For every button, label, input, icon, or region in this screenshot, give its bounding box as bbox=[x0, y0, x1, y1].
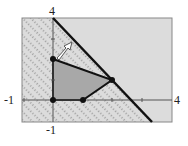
vertex-0-0 bbox=[50, 97, 56, 103]
vertex-0-2 bbox=[50, 56, 56, 62]
vertex-1-0 bbox=[80, 97, 86, 103]
chart: 4 4 -1 -1 bbox=[0, 0, 188, 146]
vertex-2-1 bbox=[109, 77, 115, 83]
y-max-label: 4 bbox=[49, 4, 55, 18]
y-min-label: -1 bbox=[46, 123, 56, 137]
x-max-label: 4 bbox=[174, 93, 180, 107]
x-min-label: -1 bbox=[4, 93, 14, 107]
